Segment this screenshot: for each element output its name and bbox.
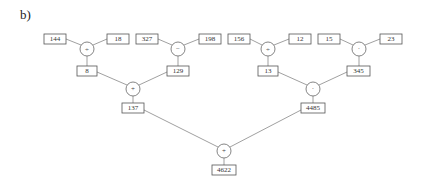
- svg-text:18: 18: [115, 35, 123, 43]
- svg-text:4485: 4485: [306, 104, 321, 112]
- svg-text:13: 13: [265, 67, 273, 75]
- divide-operator-icon: ÷: [261, 42, 275, 56]
- svg-text:156: 156: [234, 35, 245, 43]
- svg-text:327: 327: [142, 35, 153, 43]
- svg-text:198: 198: [205, 35, 216, 43]
- svg-text:·: ·: [312, 85, 314, 93]
- svg-text:15: 15: [326, 35, 334, 43]
- svg-text:129: 129: [173, 67, 184, 75]
- leaf-node: 18: [107, 34, 129, 44]
- svg-text:−: −: [176, 45, 180, 53]
- result-node: 345: [347, 66, 370, 76]
- final-result-node: 4622: [212, 165, 236, 175]
- svg-text:137: 137: [128, 104, 139, 112]
- svg-text:144: 144: [50, 35, 61, 43]
- subtract-operator-icon: −: [171, 42, 185, 56]
- svg-text:12: 12: [297, 35, 305, 43]
- multiply-operator-icon: ·: [352, 42, 366, 56]
- leaf-node: 156: [228, 34, 250, 44]
- svg-text:23: 23: [388, 35, 396, 43]
- multiply-operator-icon: ·: [306, 82, 320, 96]
- leaf-node: 327: [136, 34, 158, 44]
- svg-text:8: 8: [85, 67, 89, 75]
- svg-text:÷: ÷: [266, 45, 270, 53]
- divide-operator-icon: ÷: [80, 42, 94, 56]
- add-operator-icon: +: [217, 144, 231, 158]
- result-node: 137: [122, 103, 144, 113]
- svg-text:4622: 4622: [217, 166, 232, 174]
- svg-text:345: 345: [353, 67, 364, 75]
- svg-text:+: +: [222, 147, 226, 155]
- leaf-node: 12: [289, 34, 311, 44]
- leaf-node: 23: [380, 34, 402, 44]
- add-operator-icon: +: [126, 82, 140, 96]
- result-node: 4485: [301, 103, 325, 113]
- result-node: 129: [167, 66, 189, 76]
- expression-tree-diagram: 144 18 327 198 156 12 15 23 ÷ − ÷: [0, 0, 423, 187]
- result-node: 13: [258, 66, 278, 76]
- leaf-node: 198: [199, 34, 221, 44]
- leaf-node: 144: [44, 34, 66, 44]
- svg-text:+: +: [131, 85, 135, 93]
- svg-text:·: ·: [358, 45, 360, 53]
- result-node: 8: [77, 66, 97, 76]
- leaf-node: 15: [318, 34, 340, 44]
- svg-text:÷: ÷: [85, 45, 89, 53]
